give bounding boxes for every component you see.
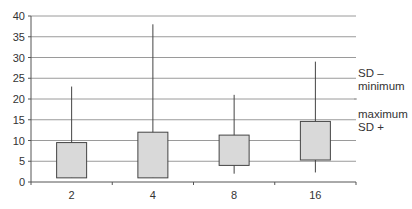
legend-label: SD – [358, 67, 405, 80]
box [138, 132, 168, 178]
legend-sd-minus-minimum: SD – minimum [358, 67, 405, 93]
y-tick-label: 10 [13, 135, 25, 147]
box [219, 135, 249, 165]
x-tick-label: 2 [69, 189, 75, 201]
y-tick-label: 0 [19, 176, 25, 188]
y-tick-label: 5 [19, 155, 25, 167]
legend-maximum-sd-plus: maximum SD + [358, 108, 408, 134]
x-tick-label: 4 [150, 189, 156, 201]
y-tick-label: 40 [13, 10, 25, 22]
legend-label: SD + [358, 121, 408, 134]
y-tick-label: 20 [13, 93, 25, 105]
box-plot-chart: 051015202530354024816 [0, 0, 412, 209]
legend-label: maximum [358, 108, 408, 121]
y-tick-label: 30 [13, 52, 25, 64]
box [57, 143, 87, 178]
x-tick-label: 16 [309, 189, 321, 201]
box [300, 121, 330, 160]
y-tick-label: 15 [13, 114, 25, 126]
x-tick-label: 8 [231, 189, 237, 201]
y-tick-label: 35 [13, 31, 25, 43]
legend-label: minimum [358, 80, 405, 93]
y-tick-label: 25 [13, 72, 25, 84]
